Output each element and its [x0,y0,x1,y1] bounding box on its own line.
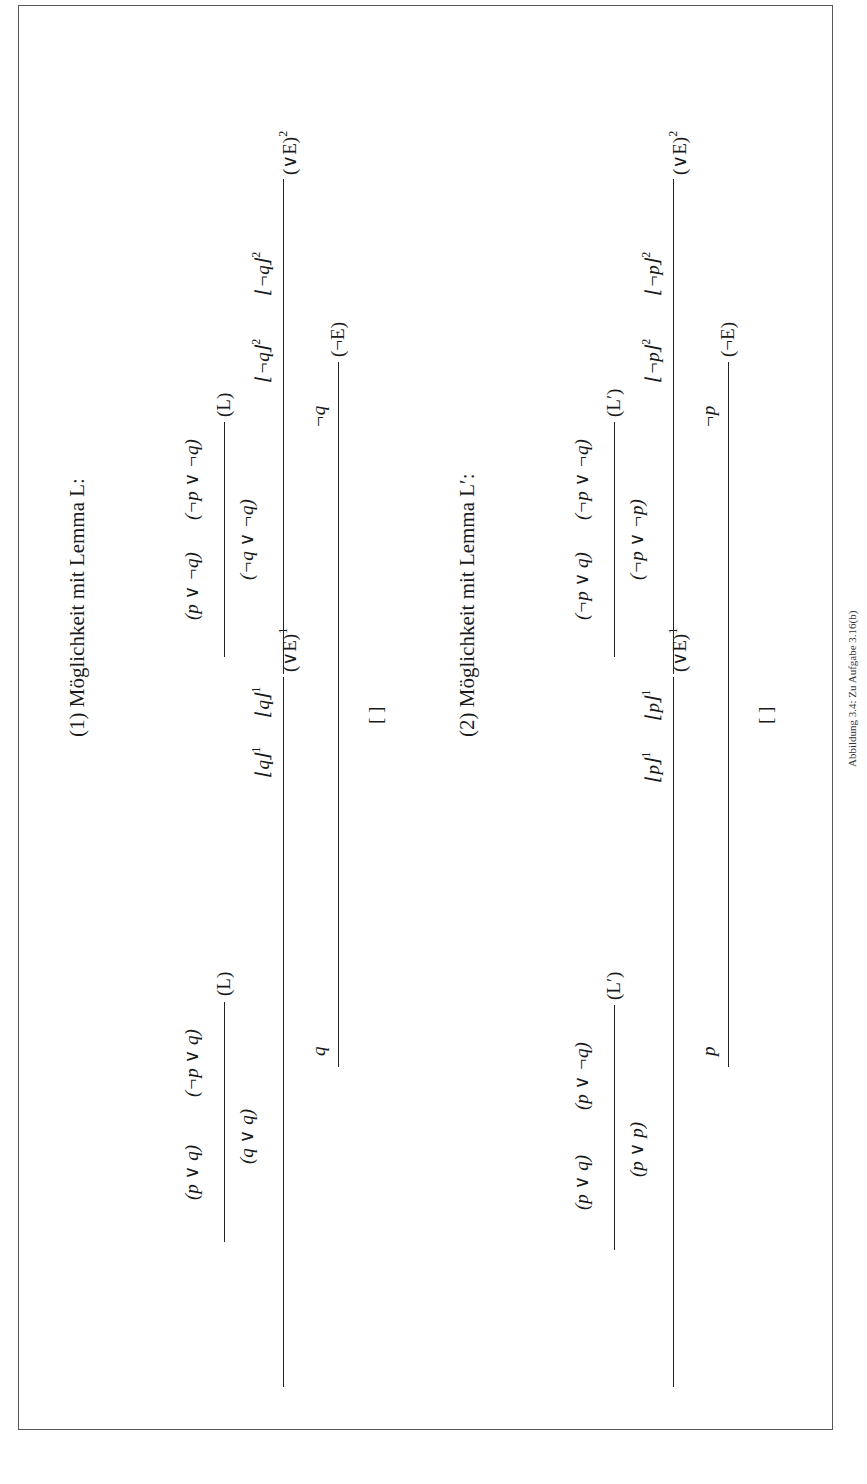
conclusion: q [308,1047,330,1057]
rule-label: (¬E) [327,322,349,357]
rule-label: (L′) [603,389,625,417]
inference-line [614,422,615,657]
premise: (¬p ∨ ¬q) [181,439,203,520]
rule-label: (L) [213,972,235,996]
premise: (p ∨ q) [181,1145,203,1200]
inference-line [728,362,729,1067]
final-conclusion: [ ] [755,707,777,724]
figure-caption: Abbildung 3.4: Zu Aufgabe 3.16(b) [841,611,863,767]
inference-line [338,362,339,1067]
inference-line [673,179,674,674]
rule-label: (L) [213,393,235,417]
assumption: ⌊¬q⌋2 [245,252,274,295]
inference-line [673,677,674,1387]
assumption: ⌊¬q⌋2 [245,339,274,382]
conclusion: p [698,1047,720,1057]
assumption: ⌊p⌋1 [635,690,664,720]
conclusion: (q ∨ q) [236,1109,258,1164]
inference-line [614,1005,615,1250]
conclusion: (¬p ∨ ¬p) [626,499,648,580]
rule-label: (∨E)1 [662,628,691,672]
proof-1-heading: (1) Möglichkeit mit Lemma L: [66,478,88,737]
premise: (¬p ∨ q) [571,552,593,620]
rotated-figure: (1) Möglichkeit mit Lemma L: (p ∨ q) (¬p… [18,5,835,1432]
assumption: ⌊¬p⌋2 [635,252,664,295]
premise: (p ∨ ¬q) [181,552,203,620]
inference-line [283,179,284,674]
rule-label: (∨E)1 [272,628,301,672]
assumption: ⌊p⌋1 [635,752,664,782]
premise: (¬p ∨ ¬q) [571,439,593,520]
inference-line [224,422,225,657]
rule-label: (∨E)2 [662,131,691,175]
conclusion: ¬q [308,406,330,428]
rule-label: (L′) [603,972,625,1000]
assumption: ⌊q⌋1 [245,687,274,717]
rule-label: (∨E)2 [272,131,301,175]
inference-line [283,677,284,1387]
conclusion: (p ∨ p) [626,1122,648,1177]
inference-line [224,1002,225,1242]
premise: (¬p ∨ q) [181,1029,203,1097]
conclusion: (¬q ∨ ¬q) [236,499,258,580]
assumption: ⌊¬p⌋2 [635,339,664,382]
conclusion: ¬p [698,406,720,428]
premise: (p ∨ q) [571,1155,593,1210]
rule-label: (¬E) [717,322,739,357]
premise: (p ∨ ¬q) [571,1042,593,1110]
assumption: ⌊q⌋1 [245,747,274,777]
proof-2-heading: (2) Möglichkeit mit Lemma L′: [456,473,478,737]
final-conclusion: [ ] [365,707,387,724]
